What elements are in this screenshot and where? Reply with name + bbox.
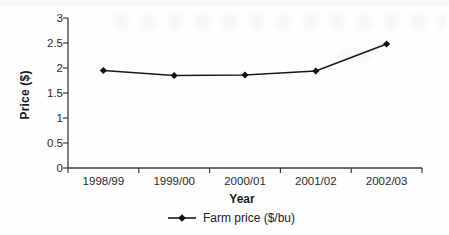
legend-label: Farm price ($/bu)	[203, 211, 295, 225]
data-point-diamond	[100, 67, 107, 74]
data-line	[103, 44, 386, 76]
y-tick-label: 1.5	[33, 86, 63, 100]
x-tick-label: 2000/01	[213, 174, 277, 188]
legend-line-diamond-icon	[167, 212, 197, 224]
x-tick-label: 1998/99	[71, 174, 135, 188]
x-axis-title: Year	[202, 192, 282, 207]
y-axis-title: Price ($)	[18, 55, 34, 135]
x-tick-label: 2002/03	[355, 174, 419, 188]
y-tick-label: 0.5	[33, 136, 63, 150]
x-tick-label: 2001/02	[284, 174, 348, 188]
y-tick-label: 2.5	[33, 36, 63, 50]
data-point-diamond	[241, 71, 248, 78]
farm-price-chart-figure: Price ($) 00.511.522.53 1998/991999/0020…	[0, 0, 449, 235]
data-point-diamond	[171, 72, 178, 79]
y-tick-label: 3	[33, 11, 63, 25]
data-point-diamond	[312, 67, 319, 74]
y-tick-label: 0	[33, 161, 63, 175]
y-tick-label: 1	[33, 111, 63, 125]
y-tick-label: 2	[33, 61, 63, 75]
data-point-diamond	[383, 40, 390, 47]
legend: Farm price ($/bu)	[167, 210, 295, 226]
x-tick-label: 1999/00	[142, 174, 206, 188]
